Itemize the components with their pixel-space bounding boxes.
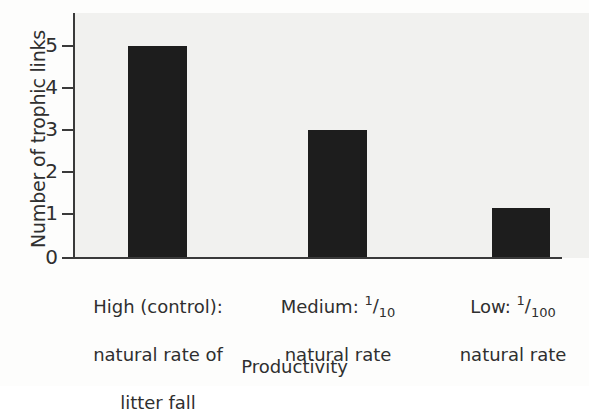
y-tick-label-2: 2: [38, 161, 58, 181]
fraction-denominator: 100: [531, 305, 556, 320]
x-category-label-low-prefix: Low:: [470, 296, 516, 317]
fraction-one-hundredth: 1/100: [517, 294, 556, 318]
y-tick-mark-3: [62, 129, 74, 131]
x-category-label-low-line1: Low: 1/100: [430, 295, 589, 319]
x-category-label-medium-prefix: Medium:: [281, 296, 365, 317]
fraction-denominator: 10: [379, 305, 396, 320]
y-axis-line: [73, 13, 75, 259]
x-category-label-high-line3: litter fall: [60, 391, 256, 413]
fraction-numerator: 1: [364, 293, 372, 308]
y-tick-label-1: 1: [38, 203, 58, 223]
x-axis-line: [73, 257, 562, 259]
y-tick-label-4: 4: [38, 77, 58, 97]
y-tick-mark-5: [62, 45, 74, 47]
y-tick-mark-2: [62, 171, 74, 173]
x-axis-title: Productivity: [0, 356, 589, 377]
fraction-numerator: 1: [517, 293, 525, 308]
y-tick-label-3: 3: [38, 119, 58, 139]
x-category-label-medium-line1: Medium: 1/10: [248, 295, 428, 319]
bar-medium: [308, 130, 367, 258]
y-tick-mark-4: [62, 87, 74, 89]
fraction-one-tenth: 1/10: [364, 294, 395, 318]
y-tick-mark-1: [62, 213, 74, 215]
bar-high: [128, 46, 187, 258]
y-tick-label-5: 5: [38, 35, 58, 55]
bar-low: [492, 208, 550, 258]
y-tick-label-0: 0: [38, 247, 58, 267]
x-category-label-high-line1: High (control):: [60, 295, 256, 319]
x-category-label-high: High (control): natural rate of litter f…: [60, 271, 256, 413]
